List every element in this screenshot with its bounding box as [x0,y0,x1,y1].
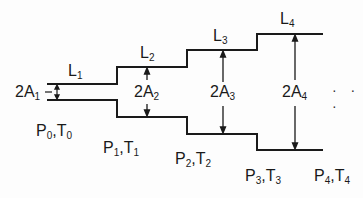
area-label-4: 2A4 [282,84,307,102]
state-label-4: P4,T4 [314,168,350,186]
state-label-1: P1,T1 [103,140,139,158]
area-label-1: 2A1 [15,84,40,102]
area-label-2: 2A2 [134,84,159,102]
state-label-0: P0,T0 [36,123,72,141]
area-label-3: 2A3 [210,84,235,102]
duct-bottom-wall [47,100,323,150]
duct-top-wall [47,34,323,84]
state-label-3: P3,T3 [245,168,281,186]
stepped-duct-diagram: L1 L2 L3 L4 2A1 2A2 2A3 2A4 · · · P0,T0 … [0,0,363,198]
continuation-dots: · · · [332,82,363,114]
length-label-1: L1 [68,63,82,81]
length-label-2: L2 [140,45,154,63]
state-label-2: P2,T2 [175,151,211,169]
length-label-4: L4 [280,11,294,29]
length-label-3: L3 [213,28,227,46]
